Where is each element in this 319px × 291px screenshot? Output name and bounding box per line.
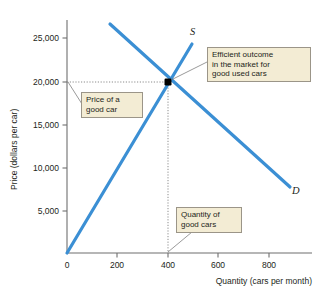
x-tick-label-400: 400: [161, 260, 175, 270]
y-tick-label-5000: 5,000: [38, 206, 60, 216]
y-tick-label-15000: 15,000: [33, 120, 59, 130]
x-tick-label-600: 600: [211, 260, 225, 270]
y-axis-ticks: [63, 38, 68, 211]
x-tick-label-200: 200: [110, 260, 124, 270]
y-tick-label-10000: 10,000: [33, 163, 59, 173]
callout-quantity-of-good-cars: Quantity of good cars: [176, 207, 242, 233]
supply-demand-chart: 25,000 20,000 15,000 10,000 5,000 0 200 …: [0, 0, 319, 291]
y-tick-label-25000: 25,000: [33, 33, 59, 43]
supply-curve-label: S: [190, 26, 196, 37]
x-tick-label-800: 800: [262, 260, 276, 270]
callout-price-of-good-car: Price of a good car: [81, 92, 143, 118]
demand-curve-label: D: [291, 185, 300, 196]
y-axis-title: Price (dollars per car): [9, 109, 19, 190]
x-axis-ticks: [117, 253, 269, 258]
callout-efficient-outcome: Efficient outcome in the market for good…: [207, 47, 311, 82]
supply-curve: [67, 44, 192, 253]
y-tick-label-20000: 20,000: [33, 77, 59, 87]
equilibrium-point: [165, 79, 172, 86]
quantity-leader-line: [168, 232, 192, 252]
x-axis-title: Quantity (cars per month): [216, 276, 313, 286]
price-leader-line: [68, 82, 82, 104]
chart-canvas: 25,000 20,000 15,000 10,000 5,000 0 200 …: [0, 0, 319, 291]
x-tick-label-0: 0: [65, 260, 70, 270]
